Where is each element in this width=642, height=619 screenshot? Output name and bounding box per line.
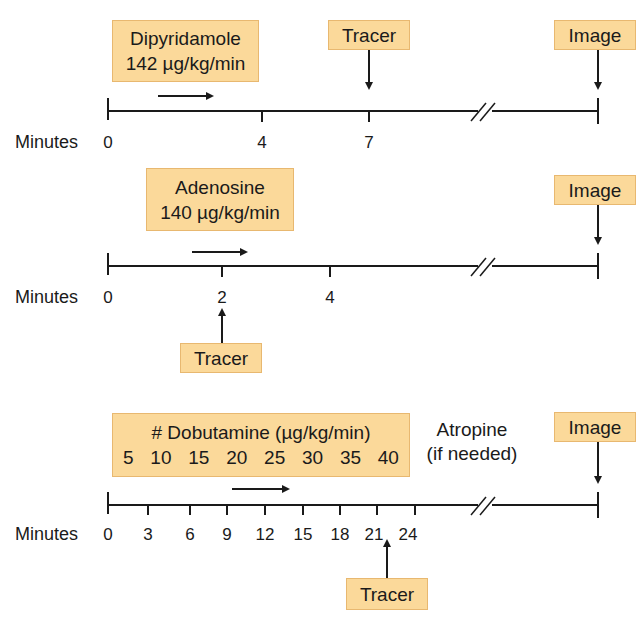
dose-step: 5: [123, 445, 134, 470]
axis-label: Minutes: [15, 287, 78, 307]
drug-dose: 140 µg/kg/min: [160, 200, 280, 225]
tick-label: 9: [222, 525, 231, 545]
drug-name: Dipyridamole: [130, 26, 241, 51]
tick-label: 24: [399, 525, 418, 545]
tick-label: 21: [365, 525, 384, 545]
image-label: Image: [569, 178, 622, 203]
tick-label: 0: [103, 288, 112, 308]
drug-dose: 142 µg/kg/min: [126, 51, 246, 76]
dobutamine-box: # Dobutamine (µg/kg/min) 5 10 15 20 25 3…: [112, 413, 410, 477]
image-box: Image: [554, 412, 636, 442]
atropine-label: Atropine: [422, 418, 522, 442]
dose-step: 15: [188, 445, 209, 470]
dose-step: 10: [150, 445, 171, 470]
adenosine-box: Adenosine 140 µg/kg/min: [146, 168, 294, 231]
tick-label: 0: [103, 133, 112, 153]
tick-label: 4: [325, 288, 334, 308]
dose-step: 25: [264, 445, 285, 470]
tracer-box: Tracer: [346, 578, 428, 610]
image-label: Image: [569, 23, 622, 48]
tracer-box: Tracer: [328, 20, 410, 50]
atropine-condition: (if needed): [422, 442, 522, 466]
tick-label: 4: [257, 133, 266, 153]
dose-step: 20: [226, 445, 247, 470]
dipyridamole-box: Dipyridamole 142 µg/kg/min: [112, 20, 259, 82]
dose-step: 35: [340, 445, 361, 470]
tick-label: 7: [364, 133, 373, 153]
dose-steps: 5 10 15 20 25 30 35 40: [123, 445, 399, 470]
atropine-note: Atropine (if needed): [422, 418, 522, 466]
tick-label: 15: [294, 525, 313, 545]
tick-label: 6: [185, 525, 194, 545]
image-box: Image: [554, 20, 636, 50]
tracer-label: Tracer: [342, 23, 396, 48]
tick-label: 18: [331, 525, 350, 545]
axis-label: Minutes: [15, 132, 78, 152]
drug-name: # Dobutamine (µg/kg/min): [152, 420, 371, 445]
tracer-label: Tracer: [360, 582, 414, 607]
image-box: Image: [554, 175, 636, 205]
timeline-3-axis: [108, 492, 598, 518]
tick-label: 3: [143, 525, 152, 545]
tracer-label: Tracer: [194, 346, 248, 371]
axis-label: Minutes: [15, 524, 78, 544]
tracer-box: Tracer: [180, 343, 262, 373]
tick-label: 12: [256, 525, 275, 545]
image-label: Image: [569, 415, 622, 440]
tick-label: 0: [103, 525, 112, 545]
dose-step: 40: [378, 445, 399, 470]
timeline-graphics: [0, 0, 642, 619]
dose-step: 30: [302, 445, 323, 470]
tick-label: 2: [217, 288, 226, 308]
timeline-2-axis: [108, 253, 598, 279]
drug-name: Adenosine: [175, 175, 265, 200]
timeline-1-axis: [108, 98, 598, 124]
